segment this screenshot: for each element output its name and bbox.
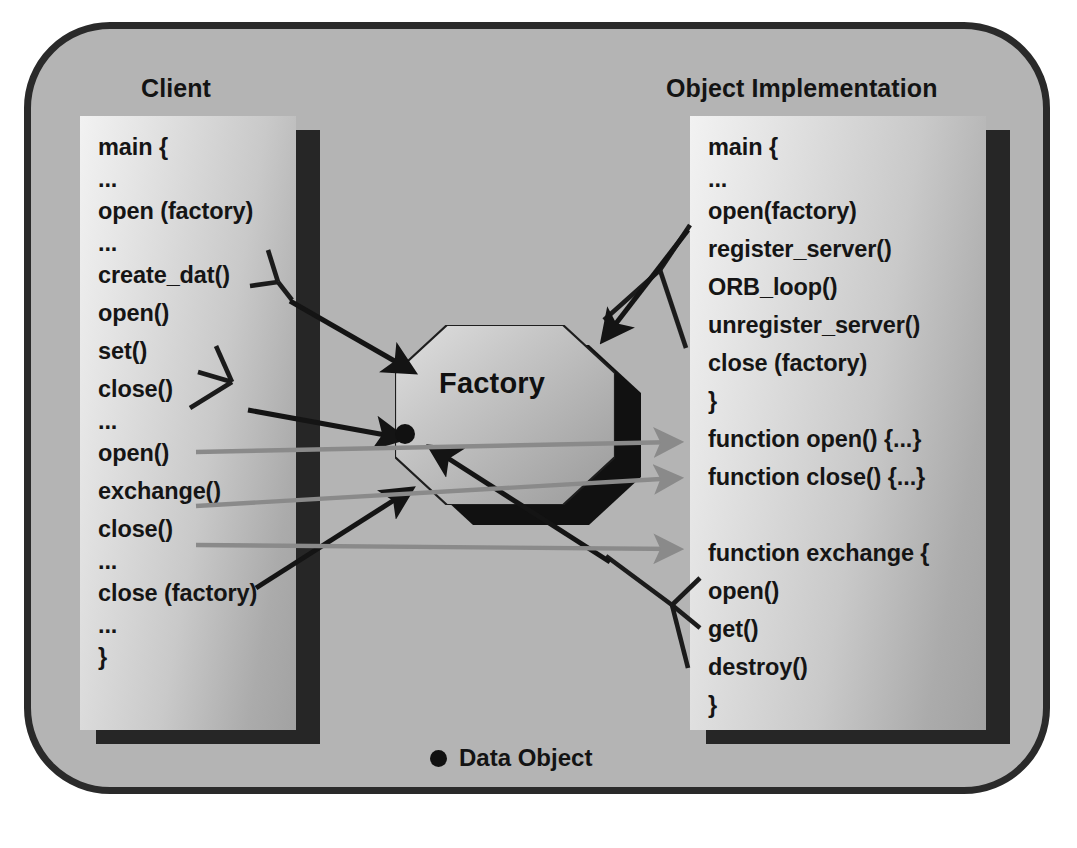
object-implementation-code-line: function close() {...}	[708, 458, 980, 496]
object-implementation-code-line: open()	[708, 572, 980, 610]
object-implementation-code-panel: main {...open(factory)register_server()O…	[690, 116, 1010, 744]
client-code-line: ...	[98, 548, 290, 574]
client-code-line: ...	[98, 612, 290, 638]
client-code-line: open (factory)	[98, 192, 290, 230]
object-implementation-code-line: get()	[708, 610, 980, 648]
section-title-client: Client	[141, 74, 211, 103]
object-implementation-code-line: unregister_server()	[708, 306, 980, 344]
factory-label: Factory	[439, 367, 545, 400]
legend: Data Object	[430, 744, 592, 772]
client-code-line: open()	[98, 294, 290, 332]
factory-octagon	[395, 325, 615, 505]
client-panel-surface: main {...open (factory)...create_dat()op…	[80, 116, 296, 730]
legend-data-object-marker-icon	[430, 750, 447, 767]
client-code-line: create_dat()	[98, 256, 290, 294]
client-code-line: ...	[98, 230, 290, 256]
object-implementation-code-line: ...	[708, 166, 980, 192]
client-code-line: close()	[98, 510, 290, 548]
client-code-line: ...	[98, 408, 290, 434]
client-code-line: close (factory)	[98, 574, 290, 612]
client-code-line: main {	[98, 128, 290, 166]
object-implementation-panel-surface: main {...open(factory)register_server()O…	[690, 116, 986, 730]
section-title-object-implementation: Object Implementation	[666, 74, 938, 103]
object-implementation-code-line: function open() {...}	[708, 420, 980, 458]
client-code-line: set()	[98, 332, 290, 370]
client-code-list: main {...open (factory)...create_dat()op…	[98, 128, 290, 676]
factory-node: Factory	[395, 325, 645, 525]
client-code-line: close()	[98, 370, 290, 408]
object-implementation-code-list: main {...open(factory)register_server()O…	[708, 128, 980, 724]
client-code-line: ...	[98, 166, 290, 192]
client-code-panel: main {...open (factory)...create_dat()op…	[80, 116, 320, 744]
object-implementation-code-line: destroy()	[708, 648, 980, 686]
object-implementation-code-line: ORB_loop()	[708, 268, 980, 306]
object-implementation-code-line: register_server()	[708, 230, 980, 268]
client-code-line: }	[98, 638, 290, 676]
client-code-line: open()	[98, 434, 290, 472]
object-implementation-code-line: }	[708, 382, 980, 420]
diagram-canvas: Client Object Implementation main {...op…	[0, 0, 1077, 848]
object-implementation-code-line	[708, 496, 980, 534]
object-implementation-code-line: close (factory)	[708, 344, 980, 382]
legend-data-object-label: Data Object	[459, 744, 592, 772]
client-code-line: exchange()	[98, 472, 290, 510]
object-implementation-code-line: }	[708, 686, 980, 724]
object-implementation-code-line: function exchange {	[708, 534, 980, 572]
object-implementation-code-line: open(factory)	[708, 192, 980, 230]
object-implementation-code-line: main {	[708, 128, 980, 166]
